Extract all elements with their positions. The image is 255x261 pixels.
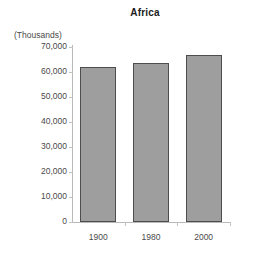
x-axis-tick-label: 1900	[72, 232, 125, 242]
y-axis-tick-label: 30,000	[41, 141, 67, 151]
bar	[186, 55, 222, 222]
y-axis-tick-mark	[69, 97, 73, 98]
y-axis-tick-label: 40,000	[41, 116, 67, 126]
bar	[80, 67, 116, 223]
y-axis-tick-label: 10,000	[41, 191, 67, 201]
y-axis-tick-mark	[69, 47, 73, 48]
y-axis-tick-mark	[69, 172, 73, 173]
y-axis-tick-mark	[69, 222, 73, 223]
y-axis-tick-label: 70,000	[41, 41, 67, 51]
y-axis-tick-mark	[69, 72, 73, 73]
y-axis-tick-label: 60,000	[41, 66, 67, 76]
plot-area: 010,00020,00030,00040,00050,00060,00070,…	[0, 0, 255, 261]
x-axis-tick-label: 1980	[125, 232, 178, 242]
y-axis-tick-mark	[69, 122, 73, 123]
y-axis-tick-label: 50,000	[41, 91, 67, 101]
x-axis-line	[72, 222, 230, 223]
y-axis-tick-mark	[69, 147, 73, 148]
bar	[133, 63, 169, 222]
y-axis-tick-mark	[69, 197, 73, 198]
x-axis-tick-mark	[230, 222, 231, 226]
y-axis-tick-label: 0	[62, 216, 67, 226]
x-axis-tick-mark	[177, 222, 178, 226]
bar-chart: Africa (Thousands) 010,00020,00030,00040…	[0, 0, 255, 261]
x-axis-tick-mark	[125, 222, 126, 226]
x-axis-tick-label: 2000	[177, 232, 230, 242]
y-axis-tick-label: 20,000	[41, 166, 67, 176]
